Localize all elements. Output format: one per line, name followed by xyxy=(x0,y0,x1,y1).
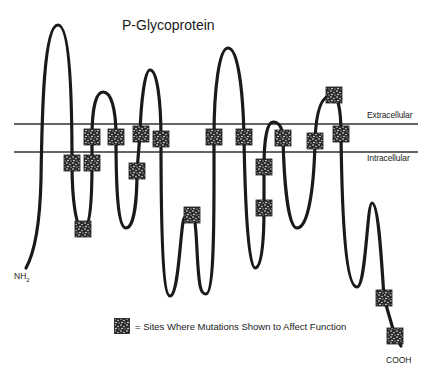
mutation-site xyxy=(84,129,100,145)
p-glycoprotein-diagram xyxy=(0,0,432,371)
diagram-title: P-Glycoprotein xyxy=(122,17,215,33)
legend: = Sites Where Mutations Shown to Affect … xyxy=(114,318,346,334)
mutation-site xyxy=(256,200,272,216)
mutation-site xyxy=(75,221,91,237)
mutation-site xyxy=(333,126,349,142)
n-terminus-text: NH xyxy=(14,271,26,281)
legend-text: = Sites Where Mutations Shown to Affect … xyxy=(135,321,346,332)
mutation-site-legend-icon xyxy=(114,318,130,334)
mutation-site xyxy=(133,126,149,142)
extracellular-label: Extracellular xyxy=(367,110,412,120)
mutation-site xyxy=(64,155,80,171)
mutation-site xyxy=(153,131,169,147)
mutation-site xyxy=(129,163,145,179)
mutation-site xyxy=(108,129,124,145)
mutation-site xyxy=(256,159,272,175)
mutation-site xyxy=(387,328,403,344)
mutation-site xyxy=(184,207,200,223)
mutation-site xyxy=(326,87,342,103)
mutation-site xyxy=(307,133,323,149)
mutation-site xyxy=(206,129,222,145)
mutation-site xyxy=(236,129,252,145)
mutation-site xyxy=(376,290,392,306)
n-terminus-label: NH2 xyxy=(14,271,30,283)
intracellular-label: Intracellular xyxy=(367,153,410,163)
n-terminus-subscript: 2 xyxy=(26,277,29,283)
protein-chain xyxy=(26,25,401,346)
mutation-site xyxy=(275,130,291,146)
mutation-site xyxy=(84,155,100,171)
c-terminus-label: COOH xyxy=(386,355,412,365)
